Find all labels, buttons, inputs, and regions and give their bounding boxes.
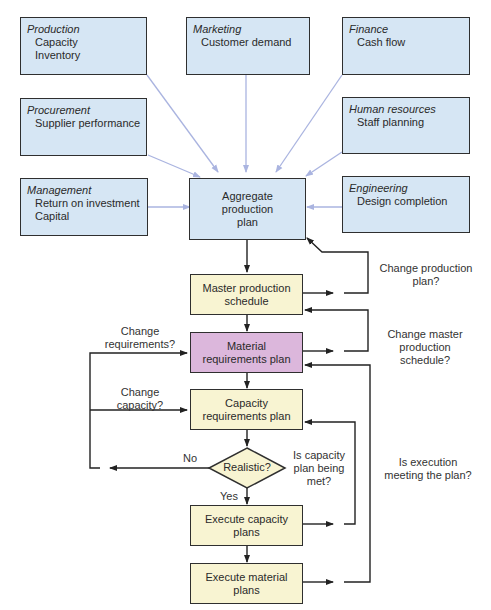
label-change-production-plan: Change production plan? bbox=[376, 262, 476, 288]
execute-capacity-plans: Execute capacity plans bbox=[190, 505, 303, 546]
dept-title: Human resources bbox=[349, 103, 469, 116]
dept-item: Customer demand bbox=[193, 36, 309, 49]
dept-title: Management bbox=[27, 184, 147, 197]
dept-engineering: Engineering Design completion bbox=[342, 176, 470, 233]
dept-item: Capital bbox=[27, 210, 147, 223]
decision-label: Realistic? bbox=[214, 461, 280, 473]
dept-production: Production Capacity Inventory bbox=[20, 17, 147, 75]
dept-title: Procurement bbox=[27, 104, 146, 117]
label-execution-meeting-plan: Is execution meeting the plan? bbox=[378, 456, 478, 482]
dept-item: Cash flow bbox=[349, 36, 469, 49]
dept-human-resources: Human resources Staff planning bbox=[342, 97, 470, 154]
dept-item: Design completion bbox=[349, 195, 469, 208]
label-yes: Yes bbox=[214, 490, 244, 503]
aggregate-production-plan: Aggregate production plan bbox=[189, 178, 306, 240]
label-change-requirements: Change requirements? bbox=[100, 325, 180, 351]
dept-item: Capacity bbox=[27, 36, 146, 49]
execute-material-plans: Execute material plans bbox=[190, 563, 303, 604]
dept-item: Return on investment bbox=[27, 197, 147, 210]
dept-title: Engineering bbox=[349, 182, 469, 195]
capacity-requirements-plan: Capacity requirements plan bbox=[190, 389, 303, 430]
dept-item: Staff planning bbox=[349, 116, 469, 129]
dept-title: Production bbox=[27, 23, 146, 36]
dept-procurement: Procurement Supplier performance bbox=[20, 98, 147, 156]
dept-management: Management Return on investment Capital bbox=[20, 178, 148, 236]
dept-title: Marketing bbox=[193, 23, 309, 36]
label-change-mps: Change master production schedule? bbox=[380, 328, 470, 367]
material-requirements-plan: Material requirements plan bbox=[190, 332, 303, 373]
dept-marketing: Marketing Customer demand bbox=[186, 17, 310, 75]
label-no: No bbox=[175, 452, 205, 465]
label-change-capacity: Change capacity? bbox=[105, 386, 175, 412]
dept-item: Inventory bbox=[27, 49, 146, 62]
label-capacity-plan-met: Is capacity plan being met? bbox=[285, 449, 353, 488]
dept-title: Finance bbox=[349, 23, 469, 36]
dept-item: Supplier performance bbox=[27, 117, 146, 130]
dept-finance: Finance Cash flow bbox=[342, 17, 470, 75]
master-production-schedule: Master production schedule bbox=[190, 274, 303, 315]
